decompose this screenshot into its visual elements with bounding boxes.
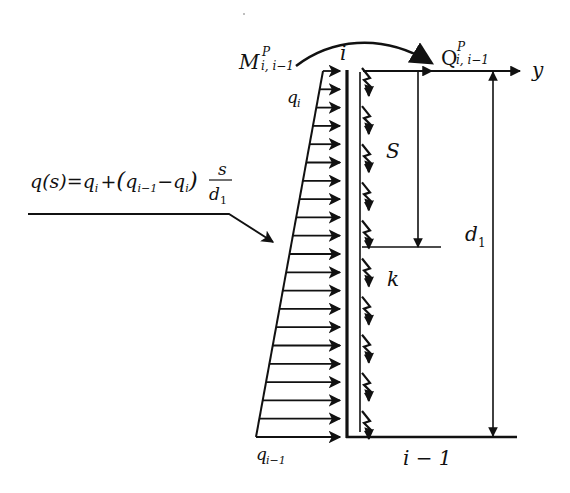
node-i-label: i: [340, 41, 346, 65]
s-label: S: [386, 139, 400, 163]
moment-arrow: [296, 43, 430, 66]
shear-label: Q: [441, 46, 457, 70]
s-dimension: [362, 72, 441, 247]
load-distribution: [256, 71, 340, 437]
formula-lhs: q(s): [30, 170, 67, 192]
springs: [362, 68, 374, 440]
formula-frac-num: s: [218, 159, 227, 179]
formula-frac-den-sub: 1: [220, 194, 227, 207]
node-im1-label: i − 1: [403, 446, 452, 470]
moment-sub: i, i−1: [261, 59, 294, 73]
d1-label: d: [465, 222, 478, 246]
shear-sub: i, i−1: [456, 53, 489, 67]
speck: [243, 13, 245, 15]
load-formula: q(s)=qi+(qi−1−qi) s d 1: [30, 159, 232, 207]
load-arrows: [256, 71, 340, 437]
spring-k-label: k: [387, 267, 399, 291]
moment-sup: P: [261, 45, 271, 59]
y-axis-label: y: [531, 58, 544, 82]
svg-text:q(s)=qi+(qi−1−qi): q(s)=qi+(qi−1−qi): [30, 167, 198, 195]
formula-frac-den: d: [209, 184, 220, 204]
d1-sub: 1: [478, 236, 486, 250]
moment-label: M: [238, 50, 260, 74]
q-i-sub: i: [297, 97, 301, 110]
shear-sup: P: [456, 40, 466, 54]
wall-load-diagram: M P i, i−1 i Q P i, i−1 y q i S k d 1 q …: [0, 0, 570, 493]
q-im1-sub: i−1: [266, 454, 286, 467]
formula-leader-arrow: [28, 214, 273, 242]
